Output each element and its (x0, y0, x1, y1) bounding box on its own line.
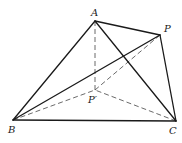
point-label-p1: P′ (87, 94, 98, 105)
point-label-b: B (7, 124, 15, 135)
solid-segments (13, 21, 176, 121)
segment-p-c (160, 35, 176, 121)
segment-a-c (95, 21, 176, 121)
segment-b-c (13, 120, 176, 121)
segment-b-p (13, 35, 160, 120)
segment-p1-p (95, 35, 160, 90)
point-label-c: C (169, 125, 177, 136)
geometry-figure: APBCP′ (0, 0, 182, 143)
point-label-p: P (163, 23, 171, 34)
point-label-a: A (90, 7, 98, 18)
point-labels: APBCP′ (7, 7, 177, 136)
